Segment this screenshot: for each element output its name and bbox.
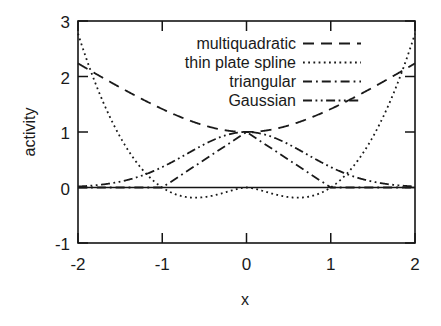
legend-label-thin-plate-spline: thin plate spline bbox=[185, 54, 296, 71]
x-tick-label-2: 2 bbox=[410, 255, 419, 274]
y-tick-label-neg1: -1 bbox=[55, 235, 70, 254]
x-axis-title: x bbox=[241, 291, 249, 308]
legend-label-multiquadratic: multiquadratic bbox=[196, 35, 296, 52]
y-axis-title: activity bbox=[21, 108, 38, 157]
x-tick-label-0: 0 bbox=[242, 255, 251, 274]
legend-label-triangular: triangular bbox=[229, 73, 296, 90]
x-tick-label-1: 1 bbox=[326, 255, 335, 274]
rbf-activity-chart: 3 2 1 0 -1 -2 -1 0 1 2 x activity multiq… bbox=[0, 0, 441, 326]
x-tick-label-neg2: -2 bbox=[70, 255, 85, 274]
curve-gaussian bbox=[78, 132, 415, 186]
y-tick-label-3: 3 bbox=[61, 13, 70, 32]
chart-figure: 3 2 1 0 -1 -2 -1 0 1 2 x activity multiq… bbox=[0, 0, 441, 326]
y-tick-label-2: 2 bbox=[61, 69, 70, 88]
y-tick-label-1: 1 bbox=[61, 124, 70, 143]
x-tick-label-neg1: -1 bbox=[155, 255, 170, 274]
legend-label-gaussian: Gaussian bbox=[228, 92, 296, 109]
legend: multiquadratic thin plate spline triangu… bbox=[185, 35, 361, 109]
y-tick-label-0: 0 bbox=[61, 180, 70, 199]
